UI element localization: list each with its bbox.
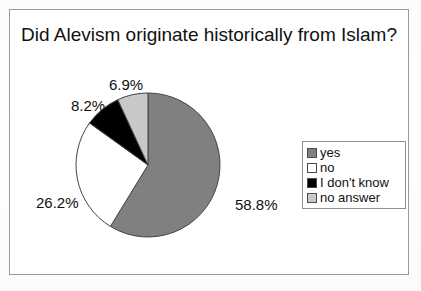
legend-item-i-dont-know[interactable]: I don't know (307, 175, 405, 190)
pie-label-i-dont-know: 8.2% (71, 97, 105, 114)
legend-label-i-dont-know: I don't know (320, 176, 389, 189)
legend-item-no-answer[interactable]: no answer (307, 190, 405, 205)
legend-item-no[interactable]: no (307, 160, 405, 175)
legend-swatch-yes (307, 148, 317, 158)
pie-slices (76, 93, 220, 237)
chart-screenshot: Did Alevism originate historically from … (0, 0, 421, 291)
legend-swatch-no-answer (307, 193, 317, 203)
legend-label-yes: yes (320, 146, 340, 159)
chart-title: Did Alevism originate historically from … (10, 24, 408, 46)
legend-swatch-i-dont-know (307, 178, 317, 188)
pie-label-no-answer: 6.9% (109, 76, 143, 93)
legend-label-no-answer: no answer (320, 191, 380, 204)
chart-frame: Did Alevism originate historically from … (9, 9, 409, 275)
chart-legend: yes no I don't know no answer (302, 141, 406, 209)
legend-item-yes[interactable]: yes (307, 145, 405, 160)
pie-label-no: 26.2% (36, 194, 79, 211)
legend-label-no: no (320, 161, 334, 174)
legend-swatch-no (307, 163, 317, 173)
pie-label-yes: 58.8% (235, 196, 278, 213)
